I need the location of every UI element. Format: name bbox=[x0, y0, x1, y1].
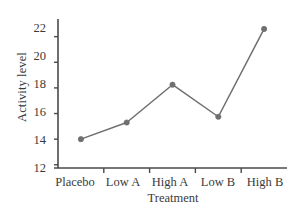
plot-area bbox=[0, 0, 305, 212]
data-markers bbox=[78, 26, 266, 141]
axis-lines bbox=[54, 19, 287, 168]
line-chart-figure: Activity level Treatment 12 14 16 18 20 … bbox=[0, 0, 305, 212]
